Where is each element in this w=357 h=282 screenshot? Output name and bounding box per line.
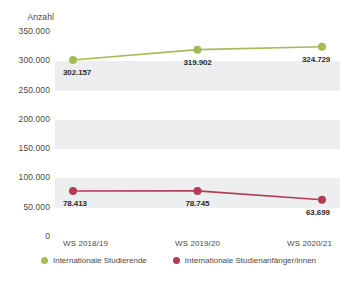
chart-container: Anzahl 050.000100.000150.000200.000250.0… (0, 0, 357, 282)
x-tick-label: WS 2018/19 (63, 239, 108, 248)
legend-label-red: Internationale Studienanfänger/innen (185, 256, 316, 265)
legend-dot-green (41, 257, 48, 264)
chart-legend: Internationale Studierende International… (0, 256, 357, 265)
legend-item-internationale-studierende[interactable]: Internationale Studierende (41, 256, 147, 265)
data-point-label: 319.902 (184, 58, 212, 67)
legend-item-internationale-studienanfaenger[interactable]: Internationale Studienanfänger/innen (173, 256, 316, 265)
y-tick-label: 0 (0, 231, 50, 241)
background-band (55, 149, 340, 178)
y-tick-label: 300.000 (0, 55, 50, 65)
y-tick-label: 250.000 (0, 85, 50, 95)
background-band (55, 208, 340, 237)
y-tick-label: 100.000 (0, 172, 50, 182)
data-point-label: 324.729 (302, 55, 330, 64)
data-point-label: 78.413 (63, 199, 87, 208)
legend-dot-red (173, 257, 180, 264)
y-tick-label: 150.000 (0, 143, 50, 153)
background-band (55, 91, 340, 120)
background-band (55, 120, 340, 149)
x-tick-label: WS 2019/20 (175, 239, 220, 248)
legend-label-green: Internationale Studierende (53, 256, 147, 265)
x-tick-label: WS 2020/21 (287, 239, 332, 248)
y-axis-title: Anzahl (6, 12, 54, 22)
y-tick-label: 50.000 (0, 202, 50, 212)
data-point-label: 78.745 (186, 199, 210, 208)
y-tick-label: 200.000 (0, 114, 50, 124)
y-tick-label: 350.000 (0, 26, 50, 36)
data-point-label: 302.157 (63, 68, 91, 77)
data-point-label: 63.699 (306, 208, 330, 217)
